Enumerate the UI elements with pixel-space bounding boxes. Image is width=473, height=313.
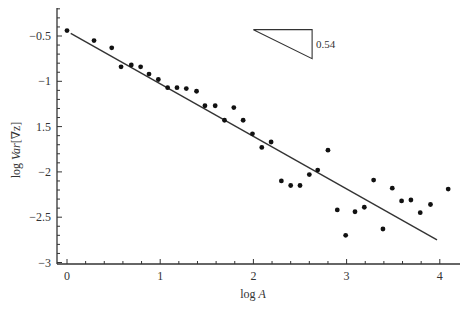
data-point bbox=[92, 38, 97, 43]
data-point bbox=[222, 118, 227, 123]
data-point bbox=[65, 28, 70, 33]
data-point bbox=[279, 179, 284, 184]
data-point bbox=[138, 64, 143, 69]
slope-triangle-annotation: 0.54 bbox=[253, 30, 335, 59]
data-point bbox=[241, 118, 246, 123]
y-tick-label: −0.5 bbox=[29, 29, 51, 43]
y-tick-label: −2 bbox=[38, 165, 51, 179]
x-tick-label: 4 bbox=[437, 269, 443, 283]
data-point bbox=[409, 198, 414, 203]
data-point bbox=[250, 131, 255, 136]
data-point bbox=[175, 85, 180, 90]
data-points bbox=[65, 28, 451, 238]
data-point bbox=[428, 202, 433, 207]
data-point bbox=[315, 168, 320, 173]
data-point bbox=[371, 178, 376, 183]
regression-line bbox=[71, 33, 437, 240]
data-point bbox=[446, 187, 451, 192]
data-point bbox=[298, 183, 303, 188]
ticks: 01234−0.5−11.5−2−2.5−3 bbox=[29, 9, 443, 283]
data-point bbox=[119, 64, 124, 69]
data-point bbox=[213, 103, 218, 108]
x-tick-label: 0 bbox=[64, 269, 70, 283]
x-axis-label: log A bbox=[240, 287, 266, 301]
y-tick-label: 1.5 bbox=[36, 120, 51, 134]
data-point bbox=[156, 77, 161, 82]
data-point bbox=[165, 85, 170, 90]
data-point bbox=[184, 86, 189, 91]
y-axis-label: log Var[∇z] bbox=[9, 122, 23, 179]
y-tick-label: −2.5 bbox=[29, 210, 51, 224]
data-point bbox=[307, 172, 312, 177]
data-point bbox=[335, 208, 340, 213]
data-point bbox=[362, 205, 367, 210]
x-tick-label: 3 bbox=[344, 269, 350, 283]
data-point bbox=[203, 103, 208, 108]
data-point bbox=[381, 227, 386, 232]
x-tick-label: 1 bbox=[157, 269, 163, 283]
data-point bbox=[231, 105, 236, 110]
data-point bbox=[129, 63, 134, 68]
slope-triangle bbox=[253, 30, 312, 59]
data-point bbox=[326, 148, 331, 153]
data-point bbox=[418, 210, 423, 215]
slope-label: 0.54 bbox=[316, 38, 336, 50]
x-tick-label: 2 bbox=[250, 269, 256, 283]
data-point bbox=[269, 140, 274, 145]
data-point bbox=[147, 72, 152, 77]
data-point bbox=[399, 198, 404, 203]
fit-line bbox=[71, 33, 437, 240]
y-tick-label: −3 bbox=[38, 256, 51, 270]
data-point bbox=[288, 183, 293, 188]
y-tick-label: −1 bbox=[38, 74, 51, 88]
data-point bbox=[343, 233, 348, 238]
data-point bbox=[390, 186, 395, 191]
data-point bbox=[194, 89, 199, 94]
axes bbox=[57, 8, 460, 264]
scatter-chart: 01234−0.5−11.5−2−2.5−3 0.54 log A log Va… bbox=[0, 0, 473, 313]
data-point bbox=[109, 45, 114, 50]
data-point bbox=[259, 145, 264, 150]
data-point bbox=[353, 209, 358, 214]
